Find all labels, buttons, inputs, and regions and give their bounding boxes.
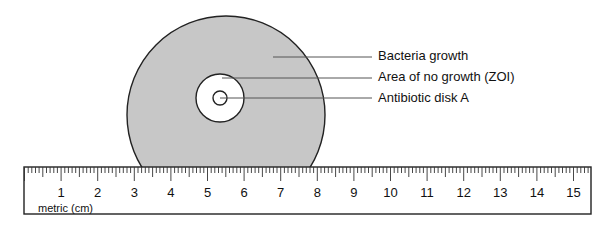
ruler-number: 6 xyxy=(240,186,247,200)
ruler-number: 2 xyxy=(94,186,101,200)
ruler-number: 10 xyxy=(383,186,397,200)
label-bacteria-growth: Bacteria growth xyxy=(378,49,468,63)
zone-of-inhibition-diagram: Bacteria growth Area of no growth (ZOI) … xyxy=(0,0,612,227)
ruler-number: 8 xyxy=(314,186,321,200)
ruler-number: 15 xyxy=(566,186,580,200)
ruler-number: 3 xyxy=(131,186,138,200)
diagram-canvas xyxy=(0,0,612,227)
ruler-number: 13 xyxy=(493,186,507,200)
ruler-unit-label: metric (cm) xyxy=(38,202,93,214)
label-zone-of-inhibition: Area of no growth (ZOI) xyxy=(378,70,515,84)
label-antibiotic-disk: Antibiotic disk A xyxy=(378,91,469,105)
ruler-number: 4 xyxy=(167,186,174,200)
ruler-number: 14 xyxy=(530,186,544,200)
ruler-number: 7 xyxy=(277,186,284,200)
ruler-number: 12 xyxy=(456,186,470,200)
ruler-number: 9 xyxy=(350,186,357,200)
ruler-number: 1 xyxy=(57,186,64,200)
ruler-number: 11 xyxy=(420,186,434,200)
ruler-number: 5 xyxy=(204,186,211,200)
